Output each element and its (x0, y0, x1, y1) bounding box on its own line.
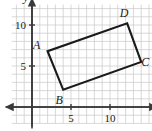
vertex-label-a: A (32, 38, 41, 52)
x-tick-label: 5 (68, 112, 74, 124)
x-tick-label: 10 (105, 112, 117, 124)
vertex-label-d: D (119, 6, 129, 20)
vertex-label-b: B (56, 93, 64, 107)
vertex-label-c: C (141, 55, 150, 69)
axis-ticks: 510510 (15, 19, 116, 124)
y-axis-label: y (22, 0, 29, 4)
coordinate-grid-figure: 510510 ABCDxy (0, 0, 152, 131)
y-tick-label: 10 (15, 19, 27, 31)
labels-layer: ABCDxy (22, 0, 152, 124)
geometry-plot: 510510 ABCDxy (0, 0, 152, 131)
y-tick-label: 5 (21, 60, 27, 72)
